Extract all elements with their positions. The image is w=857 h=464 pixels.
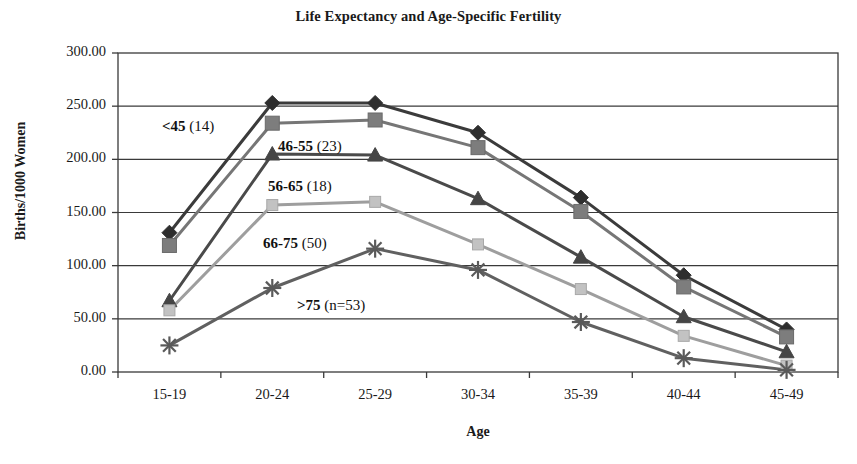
y-tick-label: 0.00 — [26, 362, 106, 379]
x-tick-label: 20-24 — [227, 386, 317, 403]
y-tick-label: 250.00 — [26, 96, 106, 113]
series-annotation: >75 (n=53) — [297, 297, 365, 314]
series-annotation: 66-75 (50) — [263, 235, 327, 252]
x-tick-label: 25-29 — [330, 386, 420, 403]
y-tick-label: 150.00 — [26, 203, 106, 220]
series-annotation: <45 (14) — [162, 118, 214, 135]
y-tick-label: 100.00 — [26, 256, 106, 273]
chart-page: Life Expectancy and Age-Specific Fertili… — [0, 0, 857, 464]
x-tick-label: 30-34 — [433, 386, 523, 403]
y-tick-label: 300.00 — [26, 43, 106, 60]
x-tick-label: 15-19 — [124, 386, 214, 403]
x-tick-label: 40-44 — [639, 386, 729, 403]
series-annotation: 46-55 (23) — [278, 138, 342, 155]
x-tick-label: 45-49 — [742, 386, 832, 403]
y-tick-label: 50.00 — [26, 309, 106, 326]
x-tick-label: 35-39 — [536, 386, 626, 403]
series-annotation: 56-65 (18) — [268, 178, 332, 195]
y-tick-label: 200.00 — [26, 149, 106, 166]
